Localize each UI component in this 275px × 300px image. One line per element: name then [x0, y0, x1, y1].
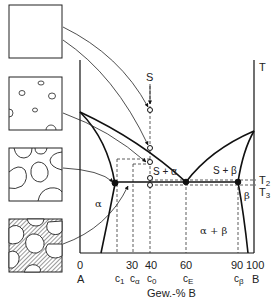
tick-90: 90	[231, 260, 243, 271]
c-beta-label: cβ	[234, 274, 244, 286]
t3-label: T3	[259, 187, 270, 200]
ce-label: cE	[183, 274, 193, 286]
c1-label: c1	[115, 274, 124, 286]
tick-0: 0	[77, 260, 83, 271]
tick-100: 100	[246, 260, 264, 271]
alpha-label: α	[95, 199, 102, 209]
t-axis-label: T	[259, 62, 266, 73]
c-alpha-label: cα	[130, 274, 140, 286]
tick-30: 30	[126, 260, 138, 271]
microstructure-alpha-grains	[9, 148, 62, 201]
phase-diagram	[0, 0, 275, 300]
x-axis-label: Gew.-% B	[147, 288, 196, 299]
microstructure-eutectic	[9, 219, 62, 272]
s-beta-label: S + β	[213, 166, 237, 176]
tick-40: 40	[145, 260, 157, 271]
beta-label: β	[244, 191, 250, 201]
alpha-beta-label: α + β	[200, 226, 227, 236]
component-b: B	[252, 274, 259, 285]
component-a: A	[77, 274, 84, 285]
c0-label: c0	[147, 274, 156, 286]
connector-arrows	[63, 27, 150, 244]
s-alpha-label: S + α	[153, 167, 177, 177]
axes	[80, 60, 254, 253]
microstructure-nuclei	[9, 77, 62, 130]
tick-60: 60	[180, 260, 192, 271]
microstructure-liquid	[9, 5, 62, 58]
liquid-label: S	[146, 72, 153, 83]
